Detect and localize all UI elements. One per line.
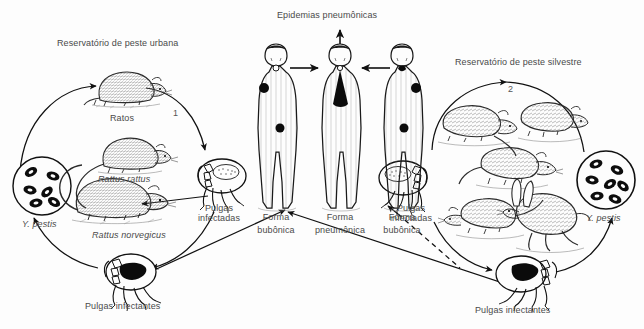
- label-form-center-line1: Forma: [316, 212, 364, 223]
- label-infecting-fleas-left: Pulgas infectantes: [85, 301, 160, 312]
- page-title-epidemics: Epidemias pneumônicas: [277, 10, 377, 21]
- label-ratos: Ratos: [110, 113, 134, 124]
- label-form-center-line2: pneumônica: [306, 225, 374, 236]
- label-form-left-line1: Forma: [252, 212, 300, 223]
- label-infected-fleas-left-line2: infectadas: [186, 213, 252, 224]
- label-form-right-line2: bubônica: [374, 225, 430, 236]
- label-rattus-norvegicus: Rattus norvegicus: [92, 230, 166, 241]
- cycle-number-sylvatic: 2: [508, 84, 513, 94]
- reservoir-urban-title: Reservatório de peste urbana: [57, 38, 178, 49]
- label-y-pestis-left: Y. pestis: [22, 219, 57, 230]
- wild-rodent-icon-3: [459, 148, 563, 189]
- wild-rodent-icon-2: [518, 103, 588, 142]
- label-form-left-line2: bubônica: [248, 225, 304, 236]
- cycle-number-urban: 1: [173, 108, 178, 118]
- label-rattus-rattus: Rattus rattus: [98, 174, 150, 185]
- rat-icon-top: [84, 72, 172, 108]
- label-y-pestis-right: Y. pestis: [586, 213, 621, 224]
- human-figure-icon-left: [258, 44, 297, 211]
- flea-icon-infecting-right: [496, 256, 557, 312]
- diagram-artwork: [0, 0, 644, 329]
- label-infecting-fleas-right: Pulgas infectantes: [475, 305, 550, 316]
- bacteria-circle-left: [13, 157, 71, 215]
- plague-transmission-diagram: Reservatório de peste urbana Reservatóri…: [0, 0, 644, 329]
- human-figure-icon-center: [322, 44, 361, 211]
- label-form-right-line1: Forma: [378, 212, 426, 223]
- bacteria-circle-right: [577, 151, 635, 209]
- rabbit-icon: [497, 179, 590, 253]
- reservoir-sylvatic-title: Reservatório de peste silvestre: [455, 57, 582, 68]
